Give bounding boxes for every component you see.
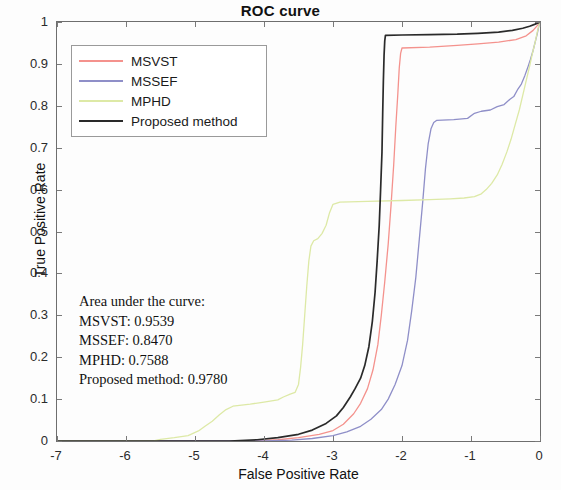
y-tick-mark <box>57 273 62 274</box>
x-tick-mark <box>195 436 196 441</box>
y-tick-mark <box>57 64 62 65</box>
auc-line: MPHD: 0.7588 <box>79 351 228 371</box>
legend-item-mssef[interactable]: MSSEF <box>76 71 260 91</box>
legend-item-label: MSSEF <box>131 74 178 89</box>
y-tick-mark <box>535 106 540 107</box>
y-tick-mark <box>535 64 540 65</box>
legend-item-proposed-method[interactable]: Proposed method <box>76 111 260 131</box>
y-tick-label: 0.1 <box>6 391 48 406</box>
y-tick-mark <box>57 441 62 442</box>
chart-title: ROC curve <box>0 2 561 19</box>
legend-item-label: MPHD <box>131 94 171 109</box>
x-tick-mark <box>264 436 265 441</box>
y-tick-label: 0.4 <box>6 265 48 280</box>
x-tick-label: -2 <box>395 448 407 463</box>
x-tick-mark <box>126 436 127 441</box>
x-tick-mark <box>540 22 541 27</box>
y-tick-mark <box>535 399 540 400</box>
x-tick-label: 0 <box>535 448 542 463</box>
y-tick-label: 0.8 <box>6 97 48 112</box>
y-tick-mark <box>535 441 540 442</box>
x-tick-mark <box>402 22 403 27</box>
x-tick-mark <box>471 22 472 27</box>
y-tick-mark <box>535 190 540 191</box>
legend-item-label: MSVST <box>131 54 178 69</box>
y-tick-mark <box>535 232 540 233</box>
legend-color-swatch <box>79 80 123 82</box>
x-tick-label: -7 <box>50 448 62 463</box>
x-tick-mark <box>402 436 403 441</box>
x-tick-mark <box>540 436 541 441</box>
x-tick-mark <box>195 22 196 27</box>
y-tick-mark <box>57 190 62 191</box>
y-tick-mark <box>535 273 540 274</box>
legend-color-swatch <box>79 100 123 102</box>
auc-line: MSVST: 0.9539 <box>79 312 228 332</box>
auc-heading: Area under the curve: <box>79 292 228 312</box>
x-tick-mark <box>333 436 334 441</box>
y-tick-mark <box>57 399 62 400</box>
y-tick-label: 0.2 <box>6 349 48 364</box>
legend-color-swatch <box>79 120 123 122</box>
x-tick-mark <box>126 22 127 27</box>
y-tick-mark <box>535 357 540 358</box>
roc-chart-figure: ROC curve False Positive Rate True Posit… <box>0 0 561 490</box>
y-tick-label: 0 <box>6 433 48 448</box>
y-tick-label: 1 <box>6 14 48 29</box>
y-tick-mark <box>57 106 62 107</box>
y-tick-mark <box>57 357 62 358</box>
auc-line: Proposed method: 0.9780 <box>79 370 228 390</box>
legend-item-mphd[interactable]: MPHD <box>76 91 260 111</box>
y-tick-mark <box>57 232 62 233</box>
x-tick-label: -1 <box>464 448 476 463</box>
y-tick-label: 0.9 <box>6 55 48 70</box>
legend: MSVSTMSSEFMPHDProposed method <box>71 45 267 137</box>
legend-color-swatch <box>79 60 123 62</box>
y-tick-label: 0.3 <box>6 307 48 322</box>
auc-annotation: Area under the curve:MSVST: 0.9539MSSEF:… <box>79 292 228 390</box>
y-tick-mark <box>57 148 62 149</box>
x-axis-title: False Positive Rate <box>56 466 541 482</box>
legend-item-label: Proposed method <box>131 114 238 129</box>
y-tick-mark <box>535 22 540 23</box>
x-tick-label: -5 <box>188 448 200 463</box>
x-tick-label: -3 <box>326 448 338 463</box>
y-tick-mark <box>535 315 540 316</box>
y-tick-mark <box>57 22 62 23</box>
legend-item-msvst[interactable]: MSVST <box>76 51 260 71</box>
x-tick-mark <box>264 22 265 27</box>
x-tick-label: -6 <box>119 448 131 463</box>
x-tick-mark <box>471 436 472 441</box>
y-tick-label: 0.7 <box>6 139 48 154</box>
x-tick-label: -4 <box>257 448 269 463</box>
y-tick-label: 0.5 <box>6 223 48 238</box>
y-tick-mark <box>57 315 62 316</box>
y-tick-mark <box>535 148 540 149</box>
auc-line: MSSEF: 0.8470 <box>79 331 228 351</box>
x-tick-mark <box>333 22 334 27</box>
y-tick-label: 0.6 <box>6 181 48 196</box>
